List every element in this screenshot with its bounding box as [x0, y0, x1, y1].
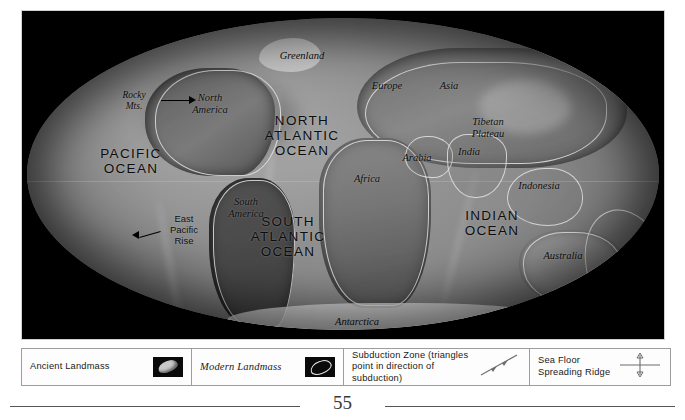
legend-item-subduction-zone[interactable]: Subduction Zone (triangles point in dire…	[344, 349, 530, 385]
landmass-africa	[319, 138, 431, 308]
footer-rule-right	[385, 406, 675, 407]
region-label-europe: Europe	[359, 80, 415, 92]
outline-south-america	[213, 180, 295, 328]
leader-line-east-pacific-rise	[139, 231, 160, 238]
landmass-eurasia	[357, 48, 627, 168]
legend-item-sea-floor-spreading-ridge[interactable]: Sea Floor Spreading Ridge	[530, 349, 670, 385]
outline-arabia	[405, 136, 453, 178]
ocean-label-pacific: PACIFIC OCEAN	[71, 146, 191, 176]
region-label-antarctica: Antarctica	[317, 316, 397, 328]
page-footer: 55	[0, 392, 685, 420]
ocean-basin-shade-nw	[147, 78, 297, 158]
region-label-tibetan-plateau: Tibetan Plateau	[455, 116, 521, 140]
legend-label-sea-floor-spreading-ridge: Sea Floor Spreading Ridge	[538, 355, 618, 378]
region-label-indonesia: Indonesia	[503, 180, 575, 192]
outline-africa	[323, 140, 429, 306]
landmass-south-america	[209, 178, 295, 328]
outline-pacific-margin-arc	[570, 198, 659, 330]
outline-indonesia	[507, 168, 583, 226]
region-label-south-america: South America	[215, 196, 277, 220]
outline-eurasia	[365, 62, 607, 164]
region-label-africa: Africa	[341, 173, 393, 185]
ocean-label-north-atlantic: NORTH ATLANTIC OCEAN	[237, 113, 367, 158]
ridge-highlight-mid-atlantic	[255, 88, 282, 288]
map-figure: PACIFIC OCEAN NORTH ATLANTIC OCEAN SOUTH…	[21, 10, 665, 340]
ocean-label-south-atlantic: SOUTH ATLANTIC OCEAN	[223, 214, 353, 259]
leader-line-rocky-mts	[161, 100, 193, 101]
tibetan-plateau-highlight	[479, 80, 571, 134]
page-number: 55	[0, 392, 685, 414]
subduction-line-icon	[477, 352, 521, 382]
legend-label-subduction-zone: Subduction Zone (triangles point in dire…	[352, 350, 477, 385]
region-label-asia: Asia	[425, 80, 473, 92]
equator-line	[27, 181, 659, 182]
map-legend: Ancient Landmass Modern Landmass Subduct…	[21, 348, 671, 386]
outline-india	[447, 134, 507, 198]
spreading-ridge-icon	[618, 352, 662, 382]
region-label-india: India	[445, 146, 493, 158]
region-label-arabia: Arabia	[389, 152, 445, 164]
arrowhead-rocky-mts	[189, 96, 196, 104]
outline-north-america	[155, 70, 281, 176]
ridge-highlight-east-pacific	[156, 199, 183, 328]
legend-label-modern-landmass: Modern Landmass	[200, 360, 281, 373]
filled-blob-swatch-icon	[153, 357, 183, 377]
legend-label-ancient-landmass: Ancient Landmass	[30, 361, 110, 373]
landmass-north-america	[145, 68, 275, 176]
ridge-highlight-indian	[440, 169, 479, 306]
legend-item-ancient-landmass[interactable]: Ancient Landmass	[22, 349, 192, 385]
landmass-antarctica	[227, 303, 557, 330]
feature-label-rocky-mts: Rocky Mts.	[107, 90, 161, 111]
region-label-north-america: North America	[179, 92, 241, 116]
arrowhead-east-pacific-rise	[132, 231, 139, 239]
region-label-australia: Australia	[527, 250, 599, 262]
region-label-greenland: Greenland	[267, 50, 337, 62]
feature-label-east-pacific-rise: East Pacific Rise	[159, 214, 209, 247]
hollow-blob-swatch-icon	[305, 357, 335, 377]
ocean-label-indian: INDIAN OCEAN	[431, 208, 553, 238]
world-globe: PACIFIC OCEAN NORTH ATLANTIC OCEAN SOUTH…	[27, 18, 659, 330]
landmass-greenland	[259, 38, 321, 72]
legend-item-modern-landmass[interactable]: Modern Landmass	[192, 349, 344, 385]
